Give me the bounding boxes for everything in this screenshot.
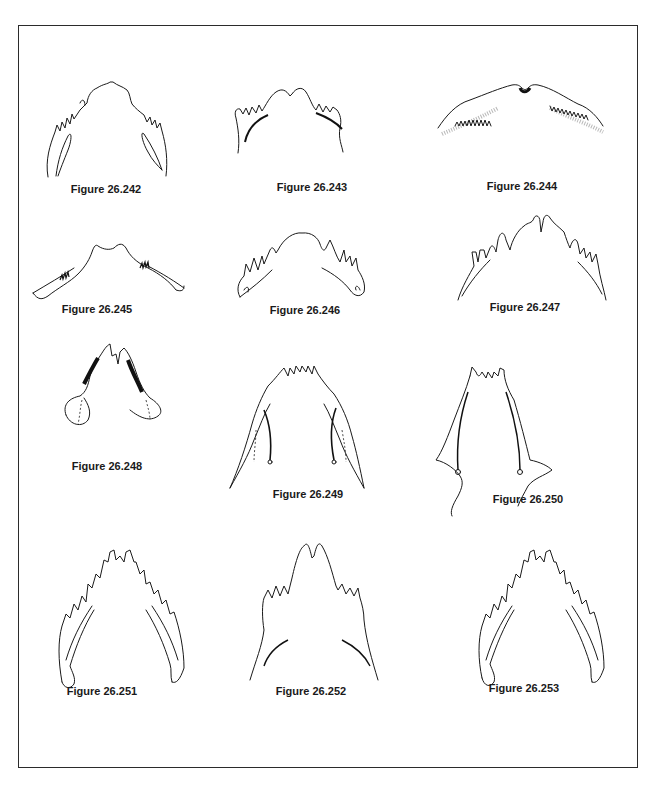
mandible-drawing-253 xyxy=(0,0,656,785)
figure-label: Figure 26.253 xyxy=(489,682,559,694)
